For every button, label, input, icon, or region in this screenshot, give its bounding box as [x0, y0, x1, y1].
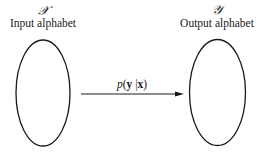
channel-transition-label: p(y |x)	[117, 78, 147, 90]
input-alphabet-ellipse	[16, 40, 70, 146]
arrowhead-icon	[175, 92, 184, 97]
output-alphabet-ellipse	[190, 40, 246, 146]
